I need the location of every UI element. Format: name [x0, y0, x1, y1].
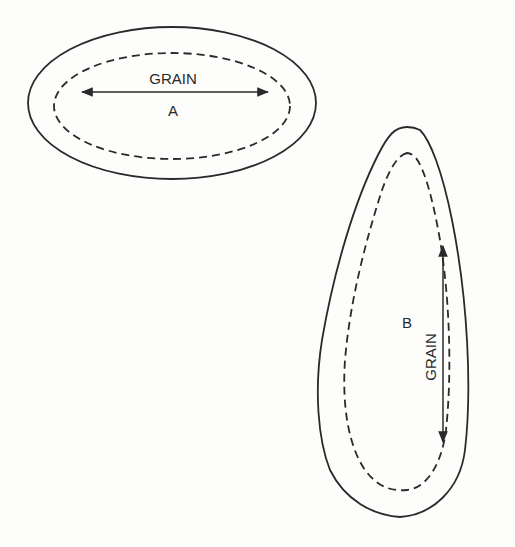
pattern-diagram: GRAIN A GRAIN B — [0, 0, 515, 547]
pattern-piece-b: GRAIN B — [318, 127, 468, 517]
piece-label-a: A — [168, 102, 178, 119]
pattern-piece-a: GRAIN A — [28, 27, 316, 179]
grain-label-a: GRAIN — [149, 70, 197, 87]
cutting-line-b — [318, 127, 468, 517]
piece-label-b: B — [402, 314, 412, 331]
grain-label-b: GRAIN — [422, 333, 439, 381]
seam-line-b — [344, 153, 449, 490]
